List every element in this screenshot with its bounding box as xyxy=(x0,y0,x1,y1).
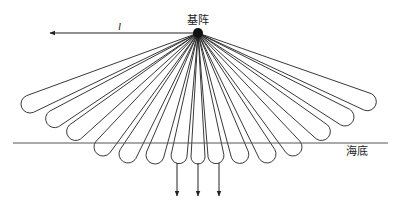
downward-arrows xyxy=(177,163,219,196)
seabed-label: 海底 xyxy=(346,144,368,158)
beam-lobes xyxy=(21,33,376,164)
beam-lobe xyxy=(198,33,376,111)
multibeam-diagram: 海底 l 基阵 xyxy=(0,0,401,208)
transducer-array-icon xyxy=(193,28,203,38)
swath-width-label: l xyxy=(118,20,121,32)
transducer-array-label: 基阵 xyxy=(187,13,209,27)
